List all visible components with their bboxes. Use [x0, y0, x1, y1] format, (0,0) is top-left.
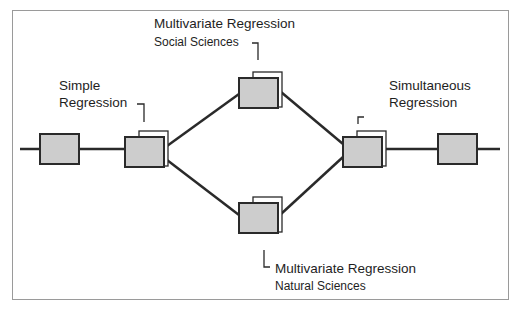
- node-multivariate-natural: [239, 197, 282, 233]
- edge-simple-natural: [167, 160, 239, 215]
- label-simultaneous-line1: Simultaneous: [389, 79, 471, 93]
- node-output: [438, 134, 477, 164]
- node-simple-regression: [125, 131, 168, 167]
- node-input: [40, 134, 79, 164]
- edge-social-simultaneous: [281, 92, 343, 144]
- label-social-line2: Social Sciences: [154, 36, 239, 48]
- simple-leader: [137, 104, 144, 122]
- label-simple-line2: Regression: [59, 96, 127, 110]
- edge-natural-simultaneous: [281, 157, 343, 214]
- label-natural-line1: Multivariate Regression: [275, 262, 416, 276]
- label-social-line1: Multivariate Regression: [154, 17, 295, 31]
- node-simultaneous-regression: [343, 131, 386, 167]
- edge-simple-social: [167, 94, 239, 146]
- label-simple-line1: Simple: [59, 79, 100, 93]
- simultaneous-leader: [358, 117, 364, 124]
- label-natural-line2: Natural Sciences: [275, 280, 366, 292]
- natural-leader: [264, 250, 270, 267]
- social-leader: [252, 43, 258, 60]
- node-multivariate-social: [239, 72, 282, 108]
- label-simultaneous-line2: Regression: [389, 96, 457, 110]
- flow-diagram: [0, 0, 519, 309]
